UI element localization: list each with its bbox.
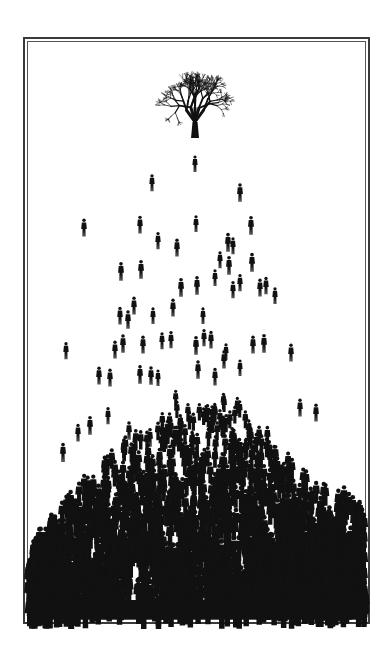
crowd-mass bbox=[24, 390, 370, 629]
artwork-canvas bbox=[0, 0, 388, 648]
illustration bbox=[0, 0, 388, 648]
tree-icon bbox=[155, 71, 234, 138]
